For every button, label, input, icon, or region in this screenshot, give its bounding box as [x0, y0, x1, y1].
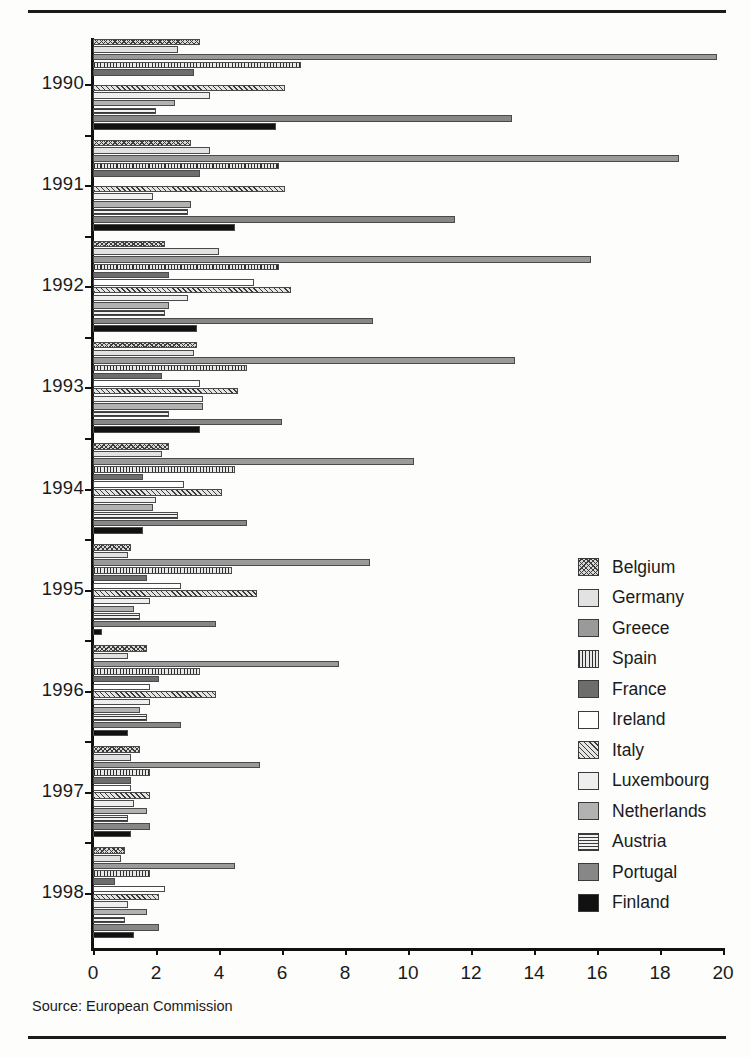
bar-belgium-1994 [93, 443, 169, 449]
bar-belgium-1995 [93, 544, 131, 550]
year-label-1992: 1992 [14, 274, 84, 296]
x-axis-tick [282, 948, 284, 955]
bar-germany-1993 [93, 350, 194, 356]
bar-greece-1994 [93, 458, 414, 464]
legend-label: Portugal [612, 862, 677, 883]
x-axis-tick-label-0: 0 [88, 962, 99, 984]
bar-spain-1990 [93, 62, 301, 68]
legend-item-finland[interactable]: Finland [578, 888, 748, 919]
bar-greece-1990 [93, 54, 717, 60]
legend-item-greece[interactable]: Greece [578, 613, 748, 644]
legend-item-germany[interactable]: Germany [578, 583, 748, 614]
bar-row [93, 170, 723, 178]
bar-finland-1990 [93, 123, 276, 129]
bar-austria-1996 [93, 714, 147, 720]
bar-row [93, 294, 723, 302]
bar-france-1994 [93, 474, 143, 480]
x-axis-tick-label-10: 10 [397, 962, 418, 984]
legend-item-italy[interactable]: Italy [578, 735, 748, 766]
bar-austria-1995 [93, 613, 140, 619]
bar-ireland-1994 [93, 481, 184, 487]
bar-row [93, 177, 723, 185]
bar-greece-1998 [93, 863, 235, 869]
bar-austria-1990 [93, 108, 156, 114]
bar-netherlands-1994 [93, 504, 153, 510]
legend-swatch-icon-belgium [578, 558, 599, 576]
bar-row [93, 418, 723, 426]
bar-luxembourg-1990 [93, 92, 210, 98]
bar-row [93, 201, 723, 209]
bar-greece-1996 [93, 661, 339, 667]
bar-greece-1997 [93, 762, 260, 768]
bar-netherlands-1991 [93, 201, 191, 207]
bar-row [93, 53, 723, 61]
bar-row [93, 519, 723, 527]
bar-belgium-1991 [93, 140, 191, 146]
bar-greece-1995 [93, 559, 370, 565]
bar-netherlands-1995 [93, 606, 134, 612]
legend-label: Germany [612, 587, 684, 608]
bar-row [93, 99, 723, 107]
bar-germany-1994 [93, 451, 162, 457]
legend-item-spain[interactable]: Spain [578, 644, 748, 675]
bar-spain-1996 [93, 668, 200, 674]
bar-italy-1992 [93, 287, 291, 293]
bar-netherlands-1992 [93, 302, 169, 308]
bar-portugal-1994 [93, 520, 247, 526]
bar-row [93, 240, 723, 248]
bar-germany-1995 [93, 552, 128, 558]
legend-item-portugal[interactable]: Portugal [578, 857, 748, 888]
bar-row [93, 403, 723, 411]
legend-label: Ireland [612, 709, 666, 730]
legend-item-france[interactable]: France [578, 674, 748, 705]
bar-row [93, 442, 723, 450]
year-label-1990: 1990 [14, 72, 84, 94]
legend-item-austria[interactable]: Austria [578, 827, 748, 858]
year-label-1998: 1998 [14, 881, 84, 903]
bar-germany-1992 [93, 248, 219, 254]
bar-finland-1998 [93, 932, 134, 938]
x-axis-line [91, 948, 723, 951]
bar-row [93, 426, 723, 434]
bar-austria-1993 [93, 411, 169, 417]
x-axis-tick [660, 948, 662, 955]
bar-france-1996 [93, 676, 159, 682]
bar-france-1993 [93, 373, 162, 379]
x-axis-tick-label-16: 16 [586, 962, 607, 984]
legend-item-ireland[interactable]: Ireland [578, 705, 748, 736]
legend-item-luxembourg[interactable]: Luxembourg [578, 766, 748, 797]
bar-ireland-1997 [93, 785, 131, 791]
bar-row [93, 208, 723, 216]
bar-luxembourg-1994 [93, 497, 156, 503]
bar-row [93, 364, 723, 372]
bar-row [93, 302, 723, 310]
bar-row [93, 931, 723, 939]
bar-row [93, 271, 723, 279]
legend-label: Spain [612, 648, 657, 669]
bar-italy-1998 [93, 894, 159, 900]
bar-row [93, 380, 723, 388]
bar-row [93, 263, 723, 271]
bar-spain-1997 [93, 769, 150, 775]
bar-row [93, 527, 723, 535]
bar-row [93, 341, 723, 349]
bar-row [93, 162, 723, 170]
legend-label: France [612, 679, 666, 700]
bar-germany-1997 [93, 754, 131, 760]
legend-item-belgium[interactable]: Belgium [578, 552, 748, 583]
bar-row [93, 473, 723, 481]
bar-france-1997 [93, 777, 131, 783]
legend-item-netherlands[interactable]: Netherlands [578, 796, 748, 827]
bar-netherlands-1996 [93, 707, 140, 713]
legend-swatch-icon-ireland [578, 711, 599, 729]
x-axis-tick-label-6: 6 [277, 962, 288, 984]
year-label-1995: 1995 [14, 578, 84, 600]
bar-italy-1996 [93, 691, 216, 697]
x-axis-tick [408, 948, 410, 955]
bar-group-1994 [93, 442, 723, 534]
bar-row [93, 216, 723, 224]
legend-swatch-icon-finland [578, 894, 599, 912]
x-axis-tick-label-8: 8 [340, 962, 351, 984]
x-axis-tick [219, 948, 221, 955]
year-label-1993: 1993 [14, 375, 84, 397]
